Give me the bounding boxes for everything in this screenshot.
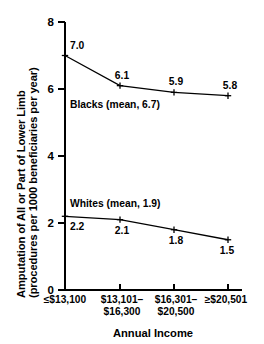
series-annotation-group: Blacks (mean, 6.7)Whites (mean, 1.9) (70, 99, 160, 209)
x-category-label-group: ≤$13,100$13,101–$16,300$16,301–$20,500≥$… (44, 294, 248, 317)
y-tick-group: 02468 (48, 16, 65, 296)
plot-area: 02468 7.06.15.95.82.22.11.81.5 Blacks (m… (0, 0, 264, 344)
data-point-marker (117, 82, 123, 88)
data-point-marker (117, 216, 123, 222)
y-axis: 02468 (48, 16, 65, 296)
data-point-label: 5.8 (223, 80, 238, 91)
series-whites: 2.22.11.81.5 (62, 213, 235, 256)
x-axis (65, 284, 242, 290)
data-point-marker (62, 52, 68, 58)
y-tick-label: 8 (48, 16, 55, 28)
data-point-label: 2.1 (115, 225, 130, 236)
data-point-label: 2.2 (70, 221, 85, 232)
series-annotation-blacks: Blacks (mean, 6.7) (70, 99, 160, 110)
x-category-label: $13,101– (101, 294, 144, 305)
chart-svg: 02468 7.06.15.95.82.22.11.81.5 Blacks (m… (0, 0, 264, 344)
y-tick-label: 2 (48, 217, 54, 229)
x-axis-title: Annual Income (113, 327, 193, 339)
data-point-marker (171, 227, 177, 233)
data-point-marker (225, 93, 231, 99)
data-point-marker (171, 89, 177, 95)
y-tick-label: 4 (48, 150, 55, 162)
series-group: 7.06.15.95.82.22.11.81.5 (62, 40, 238, 256)
x-category-label: $16,300 (104, 306, 141, 317)
x-category-label: $20,500 (158, 306, 195, 317)
x-category-label: ≤$13,100 (44, 294, 87, 305)
x-category-label: ≥$20,501 (205, 294, 248, 305)
series-line (65, 216, 228, 239)
data-point-label: 6.1 (115, 70, 130, 81)
series-line (65, 56, 228, 96)
data-point-label: 5.9 (169, 76, 184, 87)
y-tick-label: 6 (48, 83, 54, 95)
series-blacks: 7.06.15.95.8 (62, 40, 238, 99)
series-annotation-whites: Whites (mean, 1.9) (70, 198, 160, 209)
data-point-label: 7.0 (70, 40, 85, 51)
data-point-label: 1.5 (220, 245, 235, 256)
data-point-marker (225, 237, 231, 243)
data-point-marker (62, 213, 68, 219)
figure: Amputation of All or Part of Lower Limb … (0, 0, 264, 344)
data-point-label: 1.8 (169, 235, 184, 246)
x-tick-group (65, 284, 228, 290)
x-category-label: $16,301– (155, 294, 198, 305)
